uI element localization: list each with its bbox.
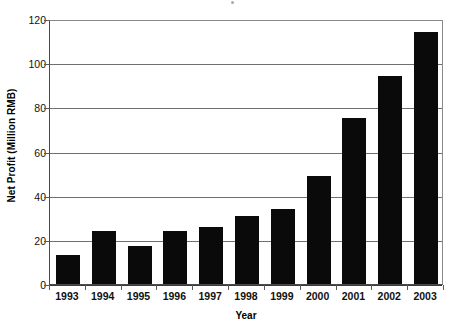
y-axis-title: Net Profit (Million RMB) bbox=[0, 0, 22, 290]
bar-2000 bbox=[307, 176, 331, 284]
y-tick-label-80: 80 bbox=[20, 102, 46, 114]
y-tick-label-60: 60 bbox=[20, 147, 46, 159]
bar-2002 bbox=[378, 76, 402, 284]
scan-artifact-speck bbox=[231, 1, 234, 4]
x-tick-label-1998: 1998 bbox=[228, 290, 264, 302]
bars-layer bbox=[50, 21, 442, 284]
bar-2003 bbox=[414, 32, 438, 284]
bar-1998 bbox=[235, 216, 259, 284]
x-axis-title: Year bbox=[49, 310, 443, 321]
y-axis-title-label: Net Profit (Million RMB) bbox=[6, 88, 17, 202]
bar-2001 bbox=[342, 118, 366, 284]
bar-1993 bbox=[56, 255, 80, 284]
x-tick-mark-11 bbox=[443, 285, 444, 290]
y-tick-label-100: 100 bbox=[20, 58, 46, 70]
x-tick-label-1995: 1995 bbox=[121, 290, 157, 302]
y-tick-label-0: 0 bbox=[20, 279, 46, 291]
x-tick-label-1996: 1996 bbox=[156, 290, 192, 302]
y-tick-label-120: 120 bbox=[20, 14, 46, 26]
x-tick-label-1993: 1993 bbox=[49, 290, 85, 302]
bar-chart: Net Profit (Million RMB) 020406080100120… bbox=[0, 0, 456, 329]
y-tick-label-40: 40 bbox=[20, 191, 46, 203]
bar-1997 bbox=[199, 227, 223, 284]
y-tick-label-20: 20 bbox=[20, 235, 46, 247]
bar-1995 bbox=[128, 246, 152, 284]
bar-1994 bbox=[92, 231, 116, 284]
bar-1996 bbox=[163, 231, 187, 284]
x-tick-label-2003: 2003 bbox=[407, 290, 443, 302]
x-tick-label-1997: 1997 bbox=[192, 290, 228, 302]
x-tick-label-1999: 1999 bbox=[264, 290, 300, 302]
x-tick-label-2000: 2000 bbox=[300, 290, 336, 302]
x-tick-label-1994: 1994 bbox=[85, 290, 121, 302]
plot-area bbox=[49, 20, 443, 285]
x-tick-label-2001: 2001 bbox=[336, 290, 372, 302]
x-axis-tick-labels: 1993199419951996199719981999200020012002… bbox=[49, 290, 443, 306]
bar-1999 bbox=[271, 209, 295, 284]
x-tick-label-2002: 2002 bbox=[371, 290, 407, 302]
y-axis-tick-labels: 020406080100120 bbox=[20, 0, 46, 329]
